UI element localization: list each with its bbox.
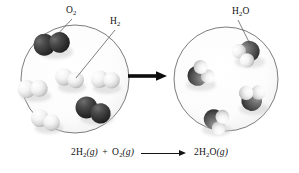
- h2o-label: H2O: [232, 7, 250, 17]
- equation-reactant-oxygen: O2(g): [112, 146, 134, 157]
- equation-plus-sign: +: [98, 146, 112, 157]
- h2-label: H2: [110, 17, 121, 27]
- h2o-subscript: 2: [239, 10, 243, 17]
- figure-canvas: O2 H2 H2O 2H2(g) + O2(g)2H2O(g): [0, 0, 299, 173]
- o2-subscript: 2: [73, 9, 77, 16]
- chemical-equation: 2H2(g) + O2(g)2H2O(g): [0, 146, 299, 157]
- equation-yields-arrow: [141, 149, 187, 157]
- product-container: [174, 20, 278, 137]
- h2-subscript: 2: [117, 20, 121, 27]
- o2-label: O2: [66, 6, 77, 16]
- reaction-arrow: [128, 71, 167, 81]
- reactant-container: [16, 19, 129, 134]
- equation-product-water: 2H2O(g): [194, 146, 228, 157]
- equation-reactant-hydrogen: 2H2(g): [71, 146, 98, 157]
